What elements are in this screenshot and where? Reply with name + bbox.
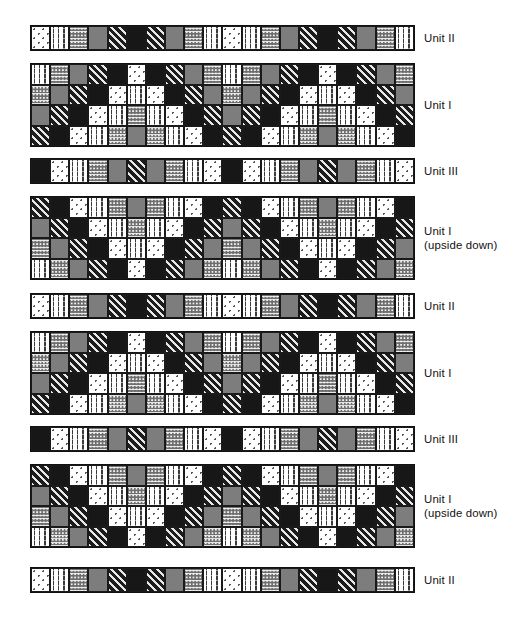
pattern-cell-diag [69, 85, 88, 106]
pattern-cell-diag [299, 568, 318, 592]
pattern-cell-dotd [69, 568, 88, 592]
pattern-cell-dotd [50, 259, 69, 280]
pattern-cell-diag [222, 197, 241, 218]
pattern-cell-blk [50, 465, 69, 486]
pattern-cell-wave [242, 568, 261, 592]
pattern-cell-dotd [299, 465, 318, 486]
pattern-cell-dotd [165, 427, 184, 451]
pattern-cell-dotw [165, 486, 184, 507]
pattern-cell-dotw [261, 197, 280, 218]
pattern-cell-diag [203, 105, 222, 126]
pattern-cell-diag [50, 218, 69, 239]
pattern-cell-dotd [242, 527, 261, 548]
pattern-cell-dotw [356, 486, 375, 507]
pattern-band-row [31, 427, 414, 451]
pattern-cell-gray [127, 394, 146, 415]
pattern-cell-dotd [146, 465, 165, 486]
pattern-cell-dotd [318, 218, 337, 239]
pattern-cell-dotw [395, 159, 414, 183]
pattern-cell-wave [280, 197, 299, 218]
pattern-cell-wave [127, 506, 146, 527]
pattern-cell-gray [69, 259, 88, 280]
pattern-cell-wave [242, 294, 261, 318]
pattern-cell-blk [395, 465, 414, 486]
pattern-cell-wave [184, 159, 203, 183]
pattern-cell-diag [50, 486, 69, 507]
pattern-cell-dotw [184, 394, 203, 415]
pattern-cell-blk [69, 218, 88, 239]
pattern-cell-dotd [356, 159, 375, 183]
pattern-cell-diag [395, 218, 414, 239]
pattern-cell-dotd [184, 568, 203, 592]
pattern-cell-wave [50, 26, 69, 50]
pattern-cell-blk [242, 394, 261, 415]
pattern-cell-gray [50, 238, 69, 259]
pattern-cell-blk [127, 294, 146, 318]
pattern-cell-diag [376, 238, 395, 259]
pattern-cell-wave [165, 126, 184, 147]
pattern-cell-dotd [280, 427, 299, 451]
pattern-cell-gray [261, 64, 280, 85]
pattern-cell-wave [318, 238, 337, 259]
pattern-cell-diag [127, 427, 146, 451]
pattern-cell-diag [356, 527, 375, 548]
pattern-figure: Unit IIUnit IUnit IIIUnit I (upside down… [0, 0, 532, 621]
pattern-cell-dotw [337, 353, 356, 374]
pattern-cell-dotw [376, 394, 395, 415]
pattern-cell-wave [31, 527, 50, 548]
pattern-cell-blk [280, 85, 299, 106]
pattern-cell-blk [184, 218, 203, 239]
pattern-cell-blk [108, 332, 127, 353]
pattern-cell-wave [395, 568, 414, 592]
pattern-cell-blk [88, 238, 107, 259]
pattern-cell-diag [356, 332, 375, 353]
pattern-cell-wave [127, 85, 146, 106]
pattern-cell-gray [318, 197, 337, 218]
pattern-cell-blk [299, 64, 318, 85]
pattern-cell-dotw [69, 197, 88, 218]
pattern-cell-diag [165, 64, 184, 85]
pattern-cell-dotw [318, 64, 337, 85]
pattern-cell-wave [31, 259, 50, 280]
pattern-band-8 [30, 464, 415, 548]
pattern-cell-diag [31, 126, 50, 147]
pattern-cell-blk [146, 527, 165, 548]
pattern-cell-blk [222, 159, 241, 183]
pattern-cell-gray [50, 353, 69, 374]
pattern-cell-wave [356, 465, 375, 486]
pattern-cell-dotd [395, 332, 414, 353]
pattern-band-row [31, 486, 414, 507]
pattern-cell-gray [261, 332, 280, 353]
pattern-cell-dotd [108, 126, 127, 147]
band-row [0, 464, 415, 548]
pattern-cell-blk [261, 105, 280, 126]
band-label-2: Unit I [424, 98, 452, 112]
pattern-cell-dotw [222, 294, 241, 318]
pattern-cell-diag [280, 64, 299, 85]
pattern-cell-blk [184, 486, 203, 507]
pattern-cell-dotd [337, 197, 356, 218]
pattern-cell-dotd [184, 26, 203, 50]
pattern-cell-dotw [356, 105, 375, 126]
pattern-cell-dotw [69, 394, 88, 415]
pattern-cell-diag [88, 527, 107, 548]
pattern-cell-diag [69, 238, 88, 259]
pattern-cell-dotw [318, 332, 337, 353]
pattern-cell-wave [146, 373, 165, 394]
pattern-cell-blk [318, 294, 337, 318]
pattern-cell-diag [356, 64, 375, 85]
pattern-cell-blk [69, 486, 88, 507]
pattern-cell-wave [127, 238, 146, 259]
pattern-cell-blk [261, 218, 280, 239]
pattern-cell-diag [376, 506, 395, 527]
pattern-cell-gray [356, 568, 375, 592]
pattern-cell-wave [395, 294, 414, 318]
pattern-cell-diag [299, 26, 318, 50]
pattern-cell-dotw [242, 427, 261, 451]
pattern-cell-dotd [395, 527, 414, 548]
pattern-cell-dotd [376, 568, 395, 592]
pattern-cell-blk [395, 394, 414, 415]
pattern-cell-blk [184, 373, 203, 394]
pattern-cell-diag [376, 353, 395, 374]
pattern-band-2 [30, 63, 415, 147]
